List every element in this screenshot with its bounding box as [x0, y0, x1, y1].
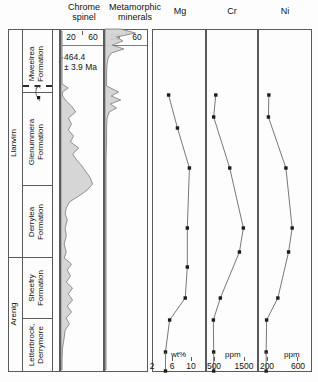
- stratigraphic-figure: Chrome spinel Metamorphic minerals Mg Cr…: [0, 0, 318, 382]
- data-plot-surface: [0, 0, 318, 382]
